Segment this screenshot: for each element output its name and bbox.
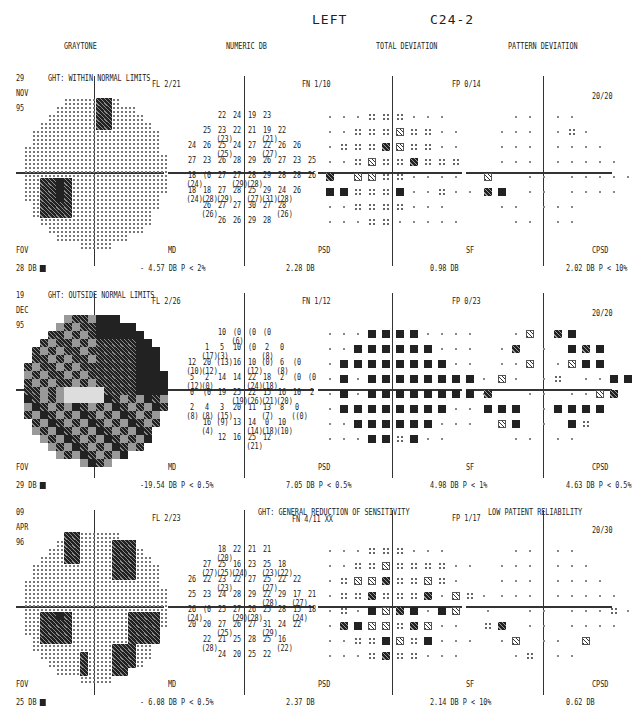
psd-value: 2.37 DB xyxy=(286,698,315,707)
deviation-symbol-icon xyxy=(326,218,334,226)
test-year: 95 xyxy=(16,104,24,113)
deviation-symbol-icon xyxy=(354,577,362,585)
deviation-symbol-icon xyxy=(396,562,404,570)
pattern-symbol-icon xyxy=(568,420,576,428)
pattern-symbol-icon xyxy=(512,128,520,136)
threshold-value: 10 xyxy=(291,388,302,397)
threshold-value: 22 (28) xyxy=(201,635,212,653)
deviation-symbol-icon xyxy=(326,622,334,630)
pattern-symbol-icon xyxy=(568,405,576,413)
false-positives: FP 0/23 xyxy=(452,297,481,306)
deviation-symbol-icon xyxy=(326,390,334,398)
deviation-symbol-icon xyxy=(424,375,432,383)
pattern-symbol-icon xyxy=(568,435,576,443)
deviation-symbol-icon xyxy=(340,562,348,570)
fixation-losses: FL 2/21 xyxy=(152,80,181,89)
deviation-symbol-icon xyxy=(466,562,474,570)
deviation-symbol-icon xyxy=(340,637,348,645)
pattern-symbol-icon xyxy=(498,405,506,413)
axis-vertical xyxy=(244,293,245,478)
deviation-symbol-icon xyxy=(368,547,376,555)
deviation-symbol-icon xyxy=(340,435,348,443)
pattern-symbol-icon xyxy=(554,203,562,211)
deviation-symbol-icon xyxy=(438,420,446,428)
deviation-symbol-icon xyxy=(424,345,432,353)
threshold-value: 26 xyxy=(186,575,197,584)
pattern-symbol-icon xyxy=(498,203,506,211)
deviation-symbol-icon xyxy=(424,405,432,413)
deviation-symbol-icon xyxy=(368,158,376,166)
pattern-symbol-icon xyxy=(512,113,520,121)
pattern-symbol-icon xyxy=(512,345,520,353)
pattern-symbol-icon xyxy=(624,173,632,181)
pattern-symbol-icon xyxy=(540,622,548,630)
threshold-value: 25 xyxy=(306,156,317,165)
deviation-symbol-icon xyxy=(368,128,376,136)
threshold-value: 28 xyxy=(231,156,242,165)
pattern-symbol-icon xyxy=(554,577,562,585)
deviation-symbol-icon xyxy=(410,390,418,398)
pattern-symbol-icon xyxy=(554,143,562,151)
pattern-symbol-icon xyxy=(498,345,506,353)
deviation-symbol-icon xyxy=(452,652,460,660)
deviation-symbol-icon xyxy=(452,158,460,166)
ght-result: GHT: OUTSIDE NORMAL LIMITS xyxy=(48,291,154,300)
deviation-symbol-icon xyxy=(466,592,474,600)
deviation-symbol-icon xyxy=(424,577,432,585)
pattern-symbol-icon xyxy=(554,562,562,570)
deviation-symbol-icon xyxy=(396,607,404,615)
pattern-symbol-icon xyxy=(610,173,618,181)
deviation-symbol-icon xyxy=(410,173,418,181)
pattern-symbol-icon xyxy=(610,375,618,383)
deviation-symbol-icon xyxy=(326,607,334,615)
md-value: - 4.57 DB P < 2% xyxy=(140,264,206,273)
pattern-symbol-icon xyxy=(540,607,548,615)
deviation-symbol-icon xyxy=(452,218,460,226)
deviation-symbol-icon xyxy=(438,375,446,383)
test-day: 19 xyxy=(16,291,24,300)
pattern-symbol-icon xyxy=(554,113,562,121)
deviation-symbol-icon xyxy=(326,360,334,368)
deviation-symbol-icon xyxy=(438,435,446,443)
threshold-value: 22 xyxy=(231,575,242,584)
pattern-symbol-icon xyxy=(540,390,548,398)
pattern-symbol-icon xyxy=(512,330,520,338)
deviation-symbol-icon xyxy=(354,652,362,660)
cpsd-label: CPSD xyxy=(592,463,608,472)
deviation-symbol-icon xyxy=(466,345,474,353)
deviation-symbol-icon xyxy=(354,188,362,196)
threshold-value: 24 xyxy=(276,620,287,629)
deviation-symbol-icon xyxy=(410,203,418,211)
pattern-symbol-icon xyxy=(568,203,576,211)
deviation-symbol-icon xyxy=(368,188,376,196)
pattern-symbol-icon xyxy=(540,188,548,196)
deviation-symbol-icon xyxy=(382,345,390,353)
deviation-symbol-icon xyxy=(382,173,390,181)
pattern-symbol-icon xyxy=(554,637,562,645)
pattern-symbol-icon xyxy=(526,113,534,121)
pattern-symbol-icon xyxy=(568,592,576,600)
deviation-symbol-icon xyxy=(396,128,404,136)
deviation-symbol-icon xyxy=(424,435,432,443)
deviation-symbol-icon xyxy=(368,143,376,151)
deviation-symbol-icon xyxy=(368,330,376,338)
pattern-symbol-icon xyxy=(526,622,534,630)
deviation-symbol-icon xyxy=(354,330,362,338)
threshold-value: 29 xyxy=(261,171,272,180)
deviation-symbol-icon xyxy=(452,405,460,413)
pattern-symbol-icon xyxy=(596,188,604,196)
threshold-value: (0 xyxy=(201,605,212,614)
deviation-symbol-icon xyxy=(368,375,376,383)
deviation-symbol-icon xyxy=(326,113,334,121)
fixation-losses: FL 2/23 xyxy=(152,514,181,523)
deviation-symbol-icon xyxy=(410,652,418,660)
pattern-symbol-icon xyxy=(498,360,506,368)
pattern-symbol-icon xyxy=(624,607,632,615)
pattern-symbol-icon xyxy=(540,420,548,428)
threshold-value: 8 xyxy=(276,403,287,412)
deviation-symbol-icon xyxy=(382,622,390,630)
threshold-value: 27 xyxy=(231,201,242,210)
threshold-value: 25 xyxy=(201,126,212,135)
deviation-symbol-icon xyxy=(480,592,488,600)
deviation-symbol-icon xyxy=(396,345,404,353)
